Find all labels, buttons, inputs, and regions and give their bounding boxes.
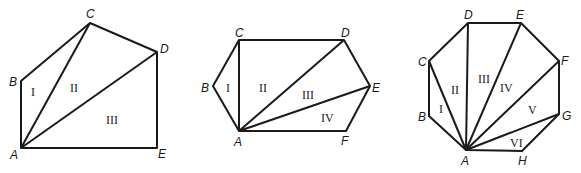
region-label: I bbox=[439, 102, 443, 116]
region-label: V bbox=[528, 103, 537, 117]
vertex-label: C bbox=[86, 7, 95, 21]
vertex-label: B bbox=[201, 81, 209, 95]
region-label: III bbox=[478, 72, 490, 86]
vertex-label: A bbox=[233, 135, 242, 149]
figure-hexagon: ABCDEFIIIIIIIV bbox=[201, 26, 381, 149]
vertex-label: B bbox=[9, 75, 17, 89]
vertex-label: A bbox=[460, 154, 469, 168]
vertex-label: E bbox=[516, 8, 525, 22]
vertex-label: F bbox=[561, 54, 569, 68]
vertex-label: D bbox=[160, 42, 169, 56]
region-label: I bbox=[226, 81, 230, 95]
figure-octagon: ABCDEFGHIIIIIIIVVVI bbox=[418, 8, 571, 168]
vertex-label: B bbox=[418, 110, 426, 124]
vertex-label: D bbox=[464, 8, 473, 22]
polygon-triangulation-diagram: ABCDEIIIIII ABCDEFIIIIIIIV ABCDEFGHIIIII… bbox=[0, 0, 581, 173]
region-label: II bbox=[70, 81, 78, 95]
vertex-label: E bbox=[158, 147, 167, 161]
region-label: I bbox=[31, 85, 35, 99]
vertex-label: G bbox=[562, 109, 571, 123]
vertex-label: H bbox=[518, 154, 527, 168]
vertex-label: C bbox=[235, 26, 244, 40]
vertex-label: A bbox=[9, 148, 18, 162]
vertex-label: D bbox=[341, 26, 350, 40]
diagonal-AD bbox=[466, 23, 468, 150]
region-label: II bbox=[451, 83, 459, 97]
vertex-label: C bbox=[418, 55, 427, 69]
region-label: VI bbox=[510, 136, 523, 150]
region-label: IV bbox=[321, 111, 334, 125]
region-label: II bbox=[259, 81, 267, 95]
vertex-label: E bbox=[372, 81, 381, 95]
region-label: III bbox=[106, 113, 118, 127]
region-label: IV bbox=[500, 81, 513, 95]
diagonal-AC bbox=[429, 61, 466, 150]
figure-pentagon: ABCDEIIIIII bbox=[9, 7, 169, 162]
pentagon-outline bbox=[21, 23, 157, 148]
region-label: III bbox=[302, 88, 314, 102]
diagonal-AD bbox=[21, 52, 157, 148]
vertex-label: F bbox=[341, 134, 349, 148]
